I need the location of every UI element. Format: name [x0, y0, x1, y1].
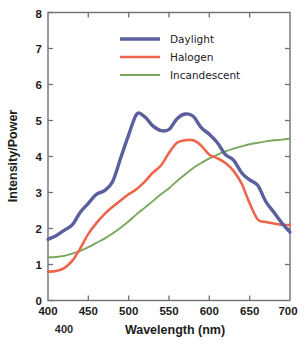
plot-frame	[48, 13, 290, 301]
x-tick-label: 700	[278, 305, 297, 317]
y-tick-label: 5	[36, 115, 43, 127]
x-axis-tick-labels: 400 450 500 550 600 650 700	[38, 305, 297, 317]
y-tick-label: 6	[36, 79, 42, 91]
x-tick-label: 600	[200, 305, 219, 317]
x-tick-label: 500	[119, 305, 138, 317]
legend-label-halogen: Halogen	[170, 51, 213, 63]
spectral-power-distribution-chart: 0 1 2 3 4 5 6 7 8 400 450 500 550 600 65…	[0, 0, 307, 351]
legend-label-incandescent: Incandescent	[170, 69, 240, 81]
y-tick-label: 4	[36, 151, 43, 163]
x-tick-label: 400	[38, 305, 57, 317]
series-line-daylight	[48, 113, 290, 239]
y-tick-label: 2	[36, 223, 42, 235]
y-axis-title: Intensity/Power	[6, 110, 20, 203]
x-axis-title: Wavelength (nm)	[125, 323, 225, 337]
y-axis-tickmarks	[48, 13, 290, 301]
y-tick-label: 8	[36, 8, 43, 20]
y-tick-label: 3	[36, 187, 42, 199]
legend-label-daylight: Daylight	[170, 33, 214, 45]
legend: Daylight Halogen Incandescent	[120, 33, 240, 81]
y-tick-label: 1	[36, 259, 43, 271]
y-tick-label: 7	[36, 43, 42, 55]
y-axis-tick-labels: 0 1 2 3 4 5 6 7 8	[36, 8, 43, 307]
stray-duplicate-xtick-label: 400	[55, 323, 73, 335]
x-tick-label: 450	[79, 305, 98, 317]
x-tick-label: 650	[240, 305, 259, 317]
series-group	[48, 113, 290, 272]
chart-canvas: 0 1 2 3 4 5 6 7 8 400 450 500 550 600 65…	[0, 0, 307, 351]
x-tick-label: 550	[159, 305, 178, 317]
